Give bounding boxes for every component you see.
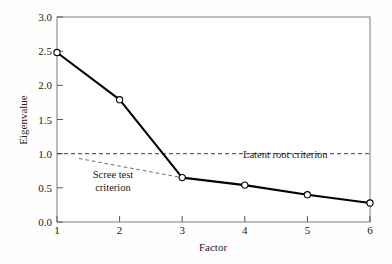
latent-root-criterion-label: Latent root criterion [243,149,328,160]
y-tick-label-2: 1.0 [38,148,52,160]
data-point-5[interactable] [304,192,310,198]
x-tick-label-1: 1 [54,224,60,236]
x-tick-label-5: 5 [305,224,311,236]
y-tick-label-4: 2.0 [38,79,52,91]
scree-plot-figure: 0.0 0.5 1.0 1.5 2.0 2.5 3.0 1 2 3 4 5 6 [0,0,392,264]
data-point-3[interactable] [179,175,185,181]
y-tick-label-1: 0.5 [38,182,52,194]
x-axis-tick-labels: 1 2 3 4 5 6 [54,224,373,236]
y-tick-label-6: 3.0 [38,11,52,23]
chart-canvas: 0.0 0.5 1.0 1.5 2.0 2.5 3.0 1 2 3 4 5 6 [0,0,392,264]
y-tick-label-3: 1.5 [38,114,52,126]
y-tick-label-5: 2.5 [38,45,52,57]
data-point-2[interactable] [117,97,123,103]
x-axis-title: Factor [199,241,227,253]
x-tick-label-4: 4 [242,224,248,236]
x-tick-label-2: 2 [117,224,123,236]
x-tick-label-3: 3 [179,224,185,236]
y-tick-label-0: 0.0 [38,216,52,228]
scree-test-criterion-label-line2: criterion [95,182,131,193]
data-point-6[interactable] [367,200,373,206]
scree-test-criterion-label-line1: Scree test [93,169,134,180]
y-axis-title: Eigenvalue [17,95,29,145]
data-point-4[interactable] [242,182,248,188]
x-tick-label-6: 6 [367,224,373,236]
data-point-1[interactable] [54,49,60,55]
y-axis-tick-labels: 0.0 0.5 1.0 1.5 2.0 2.5 3.0 [38,11,52,228]
